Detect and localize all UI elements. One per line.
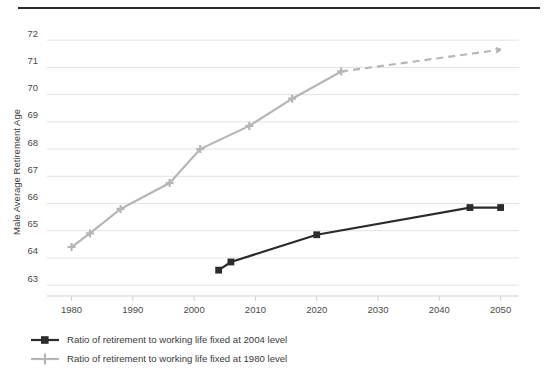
legend-item-label: Ratio of retirement to working life fixe… [67, 333, 287, 347]
gridlines-group [47, 40, 519, 285]
y-axis-tick-label: 69 [27, 109, 38, 120]
y-axis-tick-label: 68 [27, 137, 38, 148]
data-point-marker [313, 231, 320, 238]
y-axis-tick-label: 64 [27, 245, 38, 256]
x-axis-tick-label: 2020 [306, 304, 327, 315]
data-series-group [68, 48, 504, 273]
y-axis-tick-label: 72 [27, 28, 38, 39]
x-axis-tick-label: 2050 [490, 304, 511, 315]
series-line [219, 208, 501, 271]
x-axis-tick-label: 1980 [61, 304, 82, 315]
x-axis-tick-label: 2040 [429, 304, 450, 315]
y-axis-tick-label: 70 [27, 82, 38, 93]
series-line [341, 50, 500, 72]
x-axis-tick-label: 2000 [184, 304, 205, 315]
axes-group [47, 296, 519, 301]
legend-item[interactable]: Ratio of retirement to working life fixe… [30, 330, 450, 349]
data-point-marker [227, 259, 234, 266]
square-marker-icon [30, 333, 60, 347]
y-axis-tick-label: 67 [27, 164, 38, 175]
x-axis-tick-label: 2030 [367, 304, 388, 315]
data-point-marker [497, 204, 504, 211]
y-axis-tick-label: 65 [27, 218, 38, 229]
legend-item-label: Ratio of retirement to working life fixe… [67, 352, 287, 366]
line-chart-plot: 63646566676869707172 1980199020002010202… [0, 0, 546, 378]
x-axis-tick-labels: 19801990200020102020203020402050 [61, 304, 511, 315]
x-axis-tick-label: 2010 [245, 304, 266, 315]
legend-item[interactable]: Ratio of retirement to working life fixe… [30, 349, 450, 368]
plus-marker-icon [30, 352, 60, 366]
y-axis-title: Male Average Retirement Age [11, 109, 22, 235]
chart-legend: Ratio of retirement to working life fixe… [30, 330, 450, 368]
x-axis-tick-label: 1990 [122, 304, 143, 315]
y-axis-tick-label: 66 [27, 191, 38, 202]
y-axis-tick-label: 71 [27, 55, 38, 66]
series-line [72, 71, 342, 247]
y-axis-tick-labels: 63646566676869707172 [27, 28, 38, 284]
chart-figure: 63646566676869707172 1980199020002010202… [0, 0, 546, 378]
data-point-marker [215, 267, 222, 274]
y-axis-tick-label: 63 [27, 273, 38, 284]
data-point-marker [467, 204, 474, 211]
